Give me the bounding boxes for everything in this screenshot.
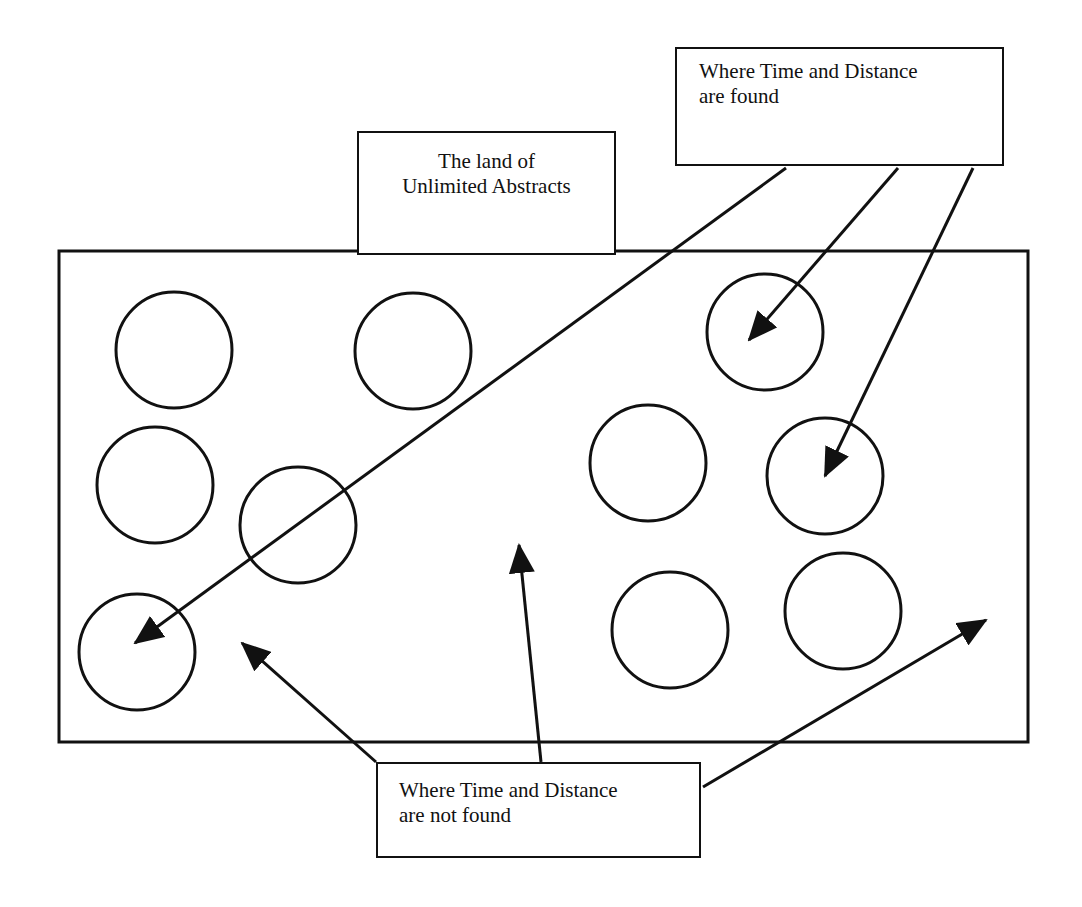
found-label-line1: Where Time and Distance (699, 59, 1002, 84)
abstracts-region (59, 251, 1028, 742)
circle-7 (590, 405, 706, 521)
arrow-notfound-right (703, 620, 986, 787)
found-label-line2: are found (699, 84, 1002, 109)
arrow-notfound-middle (519, 545, 541, 762)
arrow-found-to-circle-8 (825, 168, 973, 476)
circle-6 (707, 274, 823, 390)
land-label-line1: The land of (359, 149, 614, 174)
circle-2 (355, 293, 471, 409)
arrows-not-found (242, 545, 986, 787)
land-of-unlimited-abstracts-label: The land of Unlimited Abstracts (357, 131, 616, 255)
circle-10 (785, 553, 901, 669)
arrow-found-to-circle-6 (749, 168, 898, 340)
time-distance-found-label: Where Time and Distance are found (675, 47, 1004, 166)
circle-1 (116, 292, 232, 408)
circles-group (79, 274, 901, 710)
circle-3 (97, 427, 213, 543)
time-distance-not-found-label: Where Time and Distance are not found (376, 762, 701, 858)
notfound-label-line2: are not found (399, 803, 699, 828)
arrow-notfound-left (242, 643, 376, 762)
land-label-line2: Unlimited Abstracts (359, 174, 614, 199)
circle-9 (612, 572, 728, 688)
notfound-label-line1: Where Time and Distance (399, 778, 699, 803)
